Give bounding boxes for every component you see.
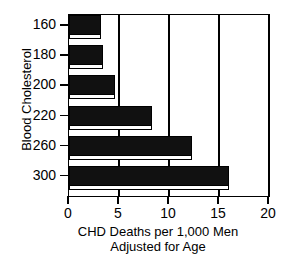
x-axis-title-line-1: CHD Deaths per 1,000 Men [38, 224, 278, 239]
x-tick-20 [267, 196, 269, 204]
bar-220 [69, 106, 152, 126]
bar-180 [69, 45, 103, 65]
y-tick-label-160: 160 [0, 17, 56, 31]
y-tick-260 [60, 145, 68, 147]
bar-260 [69, 136, 192, 156]
y-tick-label-200: 200 [0, 77, 56, 91]
x-tick-15 [217, 196, 219, 204]
x-tick-label-20: 20 [248, 206, 288, 221]
y-tick-200 [60, 84, 68, 86]
x-tick-label-5: 5 [98, 206, 138, 221]
bar-chart: Blood Cholesterol 1601802002202603000510… [0, 0, 295, 259]
bar-160 [69, 15, 101, 35]
y-tick-220 [60, 115, 68, 117]
x-tick-label-0: 0 [48, 206, 88, 221]
y-tick-300 [60, 175, 68, 177]
x-tick-5 [117, 196, 119, 204]
x-tick-label-10: 10 [148, 206, 188, 221]
gridline-20 [268, 15, 269, 196]
y-tick-label-180: 180 [0, 47, 56, 61]
x-tick-0 [67, 196, 69, 204]
y-tick-160 [60, 24, 68, 26]
x-axis-title: CHD Deaths per 1,000 Men Adjusted for Ag… [38, 224, 278, 254]
plot-area [68, 14, 270, 197]
y-tick-180 [60, 54, 68, 56]
y-tick-label-300: 300 [0, 168, 56, 182]
bar-300 [69, 166, 229, 186]
x-tick-10 [167, 196, 169, 204]
y-tick-label-220: 220 [0, 108, 56, 122]
y-axis-title: Blood Cholesterol [19, 10, 34, 190]
x-axis-title-line-2: Adjusted for Age [38, 239, 278, 254]
x-tick-label-15: 15 [198, 206, 238, 221]
y-tick-label-260: 260 [0, 138, 56, 152]
bar-200 [69, 75, 115, 95]
